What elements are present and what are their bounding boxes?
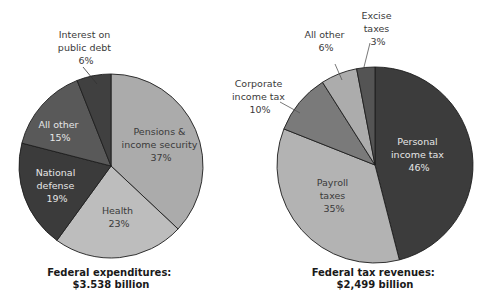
label-interest: Interest on public debt 6% [58, 29, 114, 66]
label-all-other-right: All other 6% [304, 29, 347, 53]
leader-line-excise [364, 43, 370, 67]
caption-federal-expenditures: Federal expenditures: $3.538 billion [47, 267, 175, 290]
caption-federal-tax-revenues: Federal tax revenues: $2,499 billion [312, 267, 439, 290]
chart-canvas: Pensions & income security 37% Health 23… [0, 0, 491, 290]
pie-federal-expenditures [19, 74, 203, 258]
label-corporate-income-tax: Corporate income tax 10% [232, 78, 288, 115]
label-excise-taxes: Excise taxes 3% [361, 10, 394, 47]
pie-federal-tax-revenues [277, 67, 473, 263]
